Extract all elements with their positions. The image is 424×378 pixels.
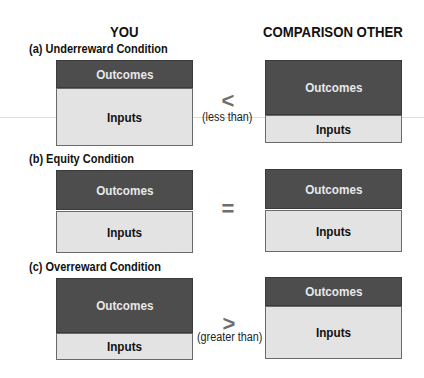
you-outcomes-label: Outcomes (96, 183, 153, 198)
other-outcomes-box: Outcomes (265, 277, 402, 306)
you-outcomes-box: Outcomes (56, 60, 193, 88)
other-inputs-label: Inputs (316, 122, 351, 137)
other-outcomes-label: Outcomes (305, 80, 362, 95)
other-outcomes-box: Outcomes (265, 60, 402, 115)
you-outcomes-box: Outcomes (56, 170, 193, 210)
you-inputs-label: Inputs (107, 225, 142, 240)
header-comparison-other: COMPARISON OTHER (263, 23, 403, 40)
other-inputs-label: Inputs (316, 325, 351, 340)
you-inputs-label: Inputs (107, 110, 142, 125)
you-outcomes-label: Outcomes (96, 67, 153, 82)
condition-title-overreward: (c) Overreward Condition (29, 260, 161, 274)
other-inputs-box: Inputs (265, 306, 402, 359)
other-outcomes-box: Outcomes (265, 169, 402, 209)
header-you: YOU (110, 23, 139, 40)
you-outcomes-label: Outcomes (96, 298, 153, 313)
you-inputs-box: Inputs (56, 88, 193, 146)
you-inputs-box: Inputs (56, 211, 193, 253)
condition-title-equity: (b) Equity Condition (29, 152, 134, 166)
other-outcomes-label: Outcomes (305, 182, 362, 197)
you-outcomes-box: Outcomes (56, 278, 193, 333)
other-inputs-box: Inputs (265, 210, 402, 252)
other-outcomes-label: Outcomes (305, 284, 362, 299)
other-inputs-label: Inputs (316, 224, 351, 239)
less-than-label: (less than) (202, 110, 252, 124)
you-inputs-box: Inputs (56, 333, 193, 360)
condition-title-underreward: (a) Underreward Condition (29, 42, 168, 56)
equals-operator: = (216, 196, 240, 222)
other-inputs-box: Inputs (265, 115, 402, 143)
you-inputs-label: Inputs (107, 339, 142, 354)
greater-than-label: (greater than) (197, 330, 262, 344)
